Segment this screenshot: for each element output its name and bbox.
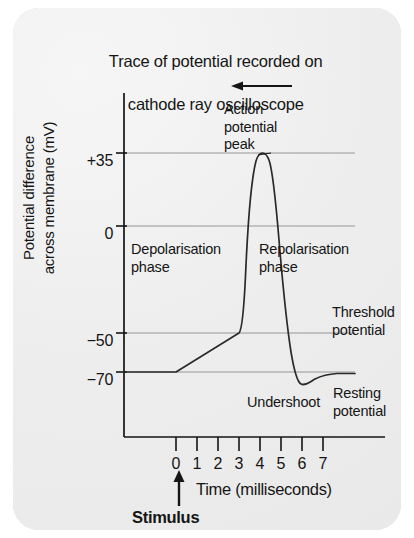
annotation-resting-potential: Resting potential: [333, 385, 414, 420]
annotation-repolarisation-phase: Repolarisation phase: [259, 241, 359, 276]
annotation-undershoot: Undershoot: [247, 394, 339, 412]
x-axis-label: Time (milliseconds): [196, 480, 332, 499]
annotation-threshold-potential: Threshold potential: [332, 304, 414, 339]
figure-panel: Trace of potential recorded on cathode r…: [13, 8, 401, 530]
annotation-stimulus: Stimulus: [132, 508, 199, 527]
annotation-depolarisation-phase: Depolarisation phase: [131, 241, 231, 276]
annotation-action-potential-peak: Action potential peak: [224, 101, 310, 154]
x-axis-ticks: [176, 437, 323, 451]
y-axis-ticks: [116, 153, 127, 372]
stimulus-arrow-icon: [174, 470, 185, 506]
